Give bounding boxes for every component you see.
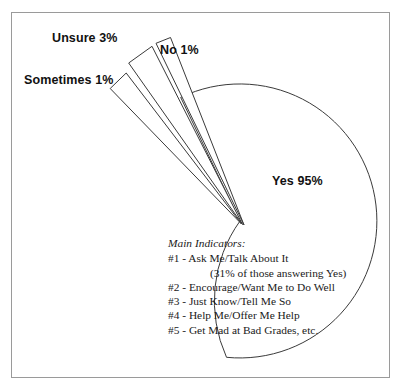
pie-label-no: No 1% [160,43,199,57]
legend-title: Main Indicators: [168,236,346,250]
legend-item-sub: (31% of those answering Yes) [168,266,346,280]
legend-item: #4 - Help Me/Offer Me Help [168,308,346,322]
legend-item: #5 - Get Mad at Bad Grades, etc. [168,323,346,337]
main-indicators-legend: Main Indicators: #1 - Ask Me/Talk About … [168,236,346,337]
pie-label-unsure: Unsure 3% [52,31,118,45]
legend-item: #2 - Encourage/Want Me to Do Well [168,280,346,294]
pie-label-sometimes: Sometimes 1% [24,73,113,87]
legend-item: #3 - Just Know/Tell Me So [168,294,346,308]
legend-item: #1 - Ask Me/Talk About It [168,251,346,265]
pie-label-yes: Yes 95% [272,174,323,188]
pie-chart-figure: Unsure 3% Sometimes 1% No 1% Yes 95% Mai… [0,0,407,391]
